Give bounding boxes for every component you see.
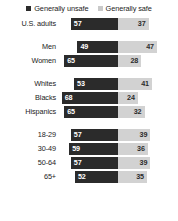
bar-value-safe: 36 [137, 143, 145, 155]
chart-row: 18-295739 [0, 129, 178, 141]
chart-legend: Generally unsafe Generally safe [0, 0, 178, 13]
group-separator [0, 69, 178, 78]
row-label: U.S. adults [0, 18, 56, 30]
bar-value-safe: 32 [134, 106, 142, 118]
row-plot: 5235 [60, 171, 176, 183]
row-plot: 6528 [60, 55, 176, 67]
row-label: 65+ [0, 171, 56, 183]
bar-safe: 41 [118, 78, 152, 90]
bar-unsafe: 68 [62, 92, 118, 104]
bar-unsafe: 65 [64, 55, 118, 67]
row-label: Blacks [0, 92, 56, 104]
group-separator [0, 120, 178, 129]
row-plot: 5737 [60, 18, 176, 30]
bar-value-safe: 39 [140, 157, 148, 169]
square-marker-icon [98, 6, 103, 11]
bar-safe: 24 [118, 92, 138, 104]
bar-value-safe: 24 [127, 92, 135, 104]
group-separator [0, 32, 178, 41]
legend-item-unsafe: Generally unsafe [26, 5, 88, 12]
bar-unsafe: 57 [71, 18, 118, 30]
bar-safe: 39 [118, 129, 150, 141]
bar-unsafe: 49 [77, 41, 118, 53]
bar-safe: 35 [118, 171, 147, 183]
chart-row: 50-645739 [0, 157, 178, 169]
bar-value-safe: 37 [138, 18, 146, 30]
chart-row: U.S. adults5737 [0, 18, 178, 30]
bar-safe: 47 [118, 41, 157, 53]
bar-value-safe: 28 [130, 55, 138, 67]
legend-label-safe: Generally safe [106, 5, 152, 12]
bar-value-unsafe: 65 [67, 106, 75, 118]
row-plot: 5341 [60, 78, 176, 90]
square-marker-icon [26, 6, 31, 11]
bar-value-unsafe: 59 [72, 143, 80, 155]
chart-row: 65+5235 [0, 171, 178, 183]
row-plot: 5936 [60, 143, 176, 155]
row-plot: 6532 [60, 106, 176, 118]
bar-value-safe: 47 [146, 41, 154, 53]
row-label: Men [0, 41, 56, 53]
bar-safe: 37 [118, 18, 149, 30]
bar-unsafe: 57 [71, 157, 118, 169]
row-label: 18-29 [0, 129, 56, 141]
bar-unsafe: 59 [69, 143, 118, 155]
bar-value-unsafe: 65 [67, 55, 75, 67]
bar-value-unsafe: 57 [74, 157, 82, 169]
legend-item-safe: Generally safe [98, 5, 152, 12]
chart-row: Whites5341 [0, 78, 178, 90]
bar-unsafe: 52 [75, 171, 118, 183]
chart-row: Hispanics6532 [0, 106, 178, 118]
chart-row: Blacks6824 [0, 92, 178, 104]
row-plot: 5739 [60, 157, 176, 169]
row-label: Women [0, 55, 56, 67]
bar-value-unsafe: 68 [65, 92, 73, 104]
bar-safe: 28 [118, 55, 141, 67]
bar-value-safe: 41 [141, 78, 149, 90]
chart-row: 30-495936 [0, 143, 178, 155]
row-label: Hispanics [0, 106, 56, 118]
bar-unsafe: 65 [64, 106, 118, 118]
bar-unsafe: 53 [74, 78, 118, 90]
row-label: 30-49 [0, 143, 56, 155]
bar-value-unsafe: 53 [77, 78, 85, 90]
diverging-bar-chart: Generally unsafe Generally safe U.S. adu… [0, 0, 178, 221]
bar-value-unsafe: 57 [74, 129, 82, 141]
chart-row: Women6528 [0, 55, 178, 67]
legend-label-unsafe: Generally unsafe [34, 5, 88, 12]
bar-safe: 36 [118, 143, 148, 155]
row-plot: 6824 [60, 92, 176, 104]
bar-value-unsafe: 49 [80, 41, 88, 53]
bar-safe: 32 [118, 106, 145, 118]
chart-row: Men4947 [0, 41, 178, 53]
bar-value-safe: 35 [136, 171, 144, 183]
bar-value-safe: 39 [140, 129, 148, 141]
row-plot: 5739 [60, 129, 176, 141]
row-plot: 4947 [60, 41, 176, 53]
bar-value-unsafe: 52 [78, 171, 86, 183]
row-label: Whites [0, 78, 56, 90]
chart-rows: U.S. adults5737Men4947Women6528Whites534… [0, 18, 178, 183]
bar-safe: 39 [118, 157, 150, 169]
bar-unsafe: 57 [71, 129, 118, 141]
bar-value-unsafe: 57 [74, 18, 82, 30]
row-label: 50-64 [0, 157, 56, 169]
